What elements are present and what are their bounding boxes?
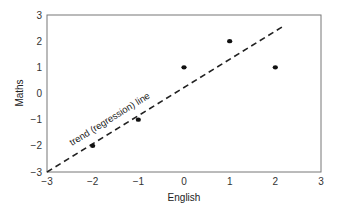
data-point <box>181 65 186 69</box>
x-tick-label: 3 <box>318 176 324 187</box>
x-tick-label: −2 <box>87 176 99 187</box>
data-point <box>136 117 141 121</box>
y-tick-label: −2 <box>31 140 43 151</box>
y-axis-ticks: −3−2−10123 <box>31 10 43 178</box>
x-tick-label: −3 <box>41 176 53 187</box>
y-tick-label: 0 <box>36 88 42 99</box>
x-axis-label: English <box>168 192 201 203</box>
y-tick-label: 3 <box>36 10 42 21</box>
x-tick-label: 1 <box>227 176 233 187</box>
data-point <box>90 144 95 148</box>
y-tick-label: −3 <box>31 167 43 178</box>
scatter-chart: trend (regression) line −3−2−10123 −3−2−… <box>0 0 341 214</box>
x-tick-label: −1 <box>133 176 145 187</box>
y-axis-label: Maths <box>14 79 25 106</box>
x-axis-ticks: −3−2−10123 <box>41 176 324 187</box>
x-tick-label: 2 <box>273 176 279 187</box>
data-point <box>227 39 232 43</box>
y-tick-label: 1 <box>36 62 42 73</box>
x-tick-label: 0 <box>181 176 187 187</box>
plot-area <box>47 15 321 172</box>
y-tick-label: −1 <box>31 114 43 125</box>
y-tick-label: 2 <box>36 36 42 47</box>
data-point <box>273 65 278 69</box>
